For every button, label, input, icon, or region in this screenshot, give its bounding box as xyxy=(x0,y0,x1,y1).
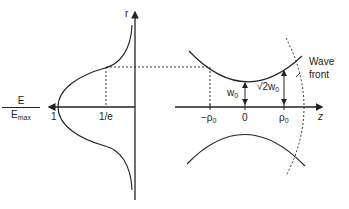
beam-envelope-lower xyxy=(187,134,305,166)
r-axis-label: r xyxy=(125,9,128,19)
sqrt2-w0-label: √2w0 xyxy=(257,82,279,93)
wavefront-label-line1: Wave xyxy=(309,57,334,67)
tick-inv-e-label: 1/e xyxy=(99,112,113,122)
wavefront-label-line2: front xyxy=(309,70,329,80)
tick-neg-rho-label: −ρ0 xyxy=(201,113,216,124)
w0-label: w0 xyxy=(227,88,238,99)
z-axis-label: z xyxy=(318,112,323,122)
tick-zero-label: 0 xyxy=(242,113,248,123)
gaussian-beam-diagram xyxy=(0,0,349,209)
tick-one-label: 1 xyxy=(51,112,57,122)
beam-envelope-upper xyxy=(189,51,302,82)
wavefront-pointer xyxy=(296,73,300,77)
field-ratio-label: E Emax xyxy=(2,95,40,121)
tick-rho-label: ρ0 xyxy=(279,113,289,124)
